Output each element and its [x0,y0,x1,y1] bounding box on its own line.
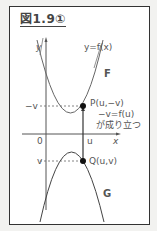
x-axis-label: x [112,136,119,146]
tick-u: u [87,136,93,146]
point-p [80,103,86,109]
tick-neg-v: −v [25,101,39,111]
origin-label: 0 [37,136,43,146]
curve-f-equation: y=f(x) [84,42,112,52]
relation-line2: が成り立つ [96,119,141,130]
y-axis-arrow-icon [45,37,48,42]
curve-g-label: G [103,188,111,199]
y-axis-label: y [35,42,42,52]
point-q [80,158,86,164]
tick-v: v [37,156,43,166]
point-q-label: Q(u,v) [89,156,117,166]
point-p-label: P(u,−v) [90,98,124,108]
relation-line1: −v=f(u) [98,109,134,119]
curve-f-label: F [104,68,111,79]
graph: y y=f(x) F −v P(u,−v) −v=f(u) が成り立つ 0 u … [0,0,157,231]
